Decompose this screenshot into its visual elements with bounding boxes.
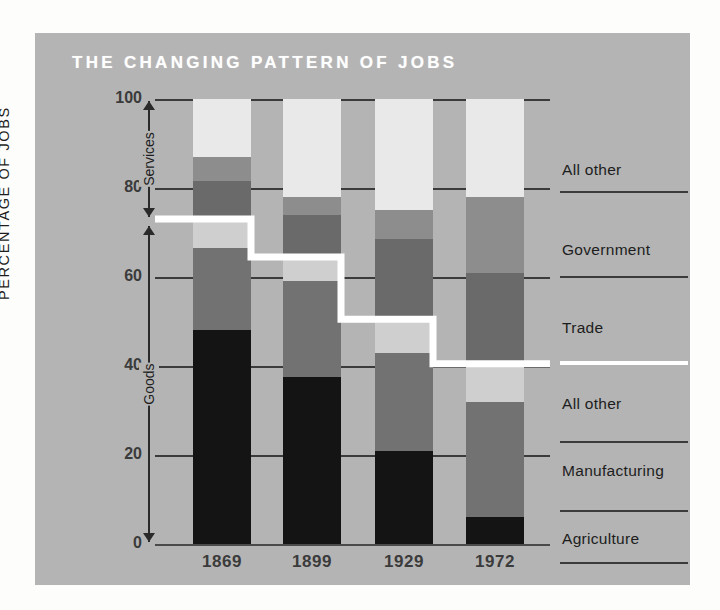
chart-figure: THE CHANGING PATTERN OF JOBS PERCENTAGE … <box>0 0 720 610</box>
legend-rule-6 <box>560 562 688 564</box>
legend-rule-1 <box>560 191 688 193</box>
legend-item-agriculture: Agriculture <box>562 530 639 548</box>
legend-rule-2 <box>560 276 688 278</box>
legend-item-manufacturing: Manufacturing <box>562 462 664 480</box>
legend-rule-5 <box>560 510 688 512</box>
legend: All other Government Trade All other Man… <box>0 0 720 610</box>
legend-item-all-other-goods: All other <box>562 395 622 413</box>
legend-rule-4 <box>560 441 688 443</box>
legend-rule-divider <box>560 361 688 365</box>
legend-item-trade: Trade <box>562 319 603 337</box>
legend-item-all-other-services: All other <box>562 161 622 179</box>
legend-item-government: Government <box>562 241 650 259</box>
